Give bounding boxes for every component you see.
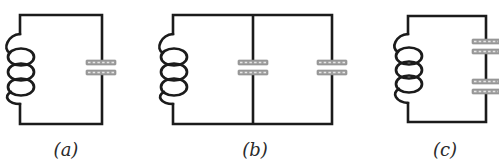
circuit-b-wires: [173, 15, 332, 124]
inductor-icon: [394, 34, 422, 103]
capacitor-icon: [472, 39, 499, 54]
circuit-c: [394, 16, 499, 122]
circuit-b: [159, 15, 347, 124]
circuit-b-label: (b): [225, 139, 285, 161]
capacitor-icon: [238, 60, 268, 75]
circuit-c-wires: [408, 16, 486, 122]
circuit-c-label: (c): [415, 139, 475, 161]
capacitor-icon: [86, 60, 116, 75]
circuit-a-label: (a): [36, 139, 96, 161]
capacitor-icon: [472, 79, 499, 94]
circuit-a: [6, 15, 116, 124]
capacitor-icon: [317, 60, 347, 75]
inductor-icon: [159, 34, 187, 104]
inductor-icon: [6, 34, 34, 104]
figure-canvas: (a) (b) (c): [0, 0, 499, 167]
